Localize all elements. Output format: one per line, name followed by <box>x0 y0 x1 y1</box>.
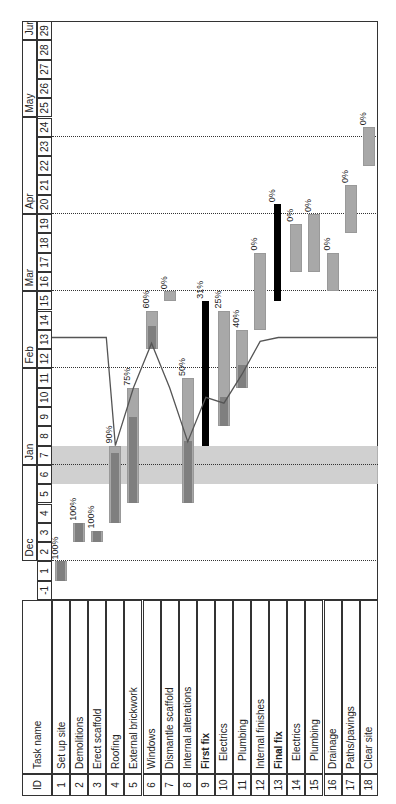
rotated-gantt-frame: IDTask nameDecJanFebMarAprMayJun-1123456… <box>0 0 396 804</box>
gantt-chart: IDTask nameDecJanFebMarAprMayJun-1123456… <box>0 0 396 804</box>
progress-line <box>0 0 396 804</box>
